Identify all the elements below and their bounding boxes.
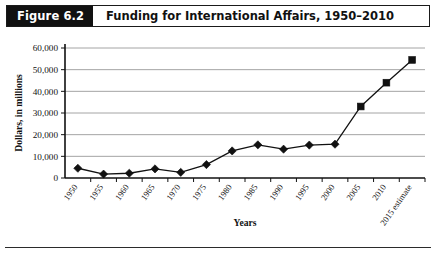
gridlines [65, 48, 425, 156]
figure-header-bar: Figure 6.2 Funding for International Aff… [6, 5, 430, 27]
x-tick-label: 1995 [293, 182, 311, 202]
data-point-markers [74, 57, 416, 179]
x-tick-label: 1970 [164, 182, 182, 202]
figure-title: Funding for International Affairs, 1950–… [93, 6, 429, 26]
data-series-line [78, 60, 412, 174]
x-axis-title: Years [234, 217, 257, 228]
data-point-marker [151, 165, 159, 173]
data-point-marker [228, 147, 236, 155]
x-tick-label: 2000 [319, 182, 337, 202]
y-tick-label: 40,000 [33, 87, 59, 97]
data-point-marker [279, 145, 287, 153]
x-tick-label: 1990 [267, 182, 285, 202]
x-tick-label: 2010 [370, 182, 388, 202]
y-tick-label: 20,000 [33, 130, 59, 140]
y-tick-label: 60,000 [33, 43, 59, 53]
y-tick-label: 10,000 [33, 152, 59, 162]
x-tick-label: 1965 [139, 182, 157, 202]
data-point-marker [357, 103, 364, 110]
data-point-marker [383, 79, 390, 86]
y-tick-label: 30,000 [33, 108, 59, 118]
data-point-marker [331, 140, 339, 148]
data-point-marker [305, 141, 313, 149]
x-tick-label: 1960 [113, 182, 131, 202]
x-tick-label: 1955 [87, 182, 105, 202]
y-tick-label: 50,000 [33, 65, 59, 75]
y-axis-title: Dollars, in millions [13, 74, 24, 152]
data-point-marker [177, 168, 185, 176]
x-tick-label: 1980 [216, 182, 234, 202]
bottom-divider-rule [5, 247, 431, 248]
y-axis-tick-labels: 010,00020,00030,00040,00050,00060,000 [33, 43, 59, 183]
y-tick-label: 0 [53, 173, 58, 183]
data-point-marker [74, 164, 82, 172]
figure-number-label: Figure 6.2 [7, 6, 93, 26]
x-tick-label: 1975 [190, 182, 208, 202]
data-point-marker [254, 141, 262, 149]
data-point-marker [125, 169, 133, 177]
data-point-marker [202, 160, 210, 168]
chart-container: 010,00020,00030,00040,00050,00060,000 19… [0, 30, 436, 230]
data-point-marker [99, 170, 107, 178]
x-tick-label: 1985 [241, 182, 259, 202]
x-tick-label: 2005 [344, 182, 362, 202]
x-tick-label: 1950 [61, 182, 79, 202]
line-chart: 010,00020,00030,00040,00050,00060,000 19… [0, 30, 436, 230]
data-point-marker [409, 57, 416, 64]
